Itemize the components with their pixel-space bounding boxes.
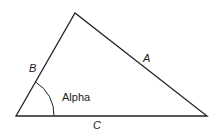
angle-label: Alpha (62, 91, 91, 103)
side-c-label: C (93, 119, 101, 131)
angle-arc (36, 82, 55, 116)
side-a-label: A (142, 52, 150, 64)
triangle-diagram: B A C Alpha (0, 0, 214, 132)
side-b-label: B (29, 62, 36, 74)
triangle (16, 13, 207, 116)
